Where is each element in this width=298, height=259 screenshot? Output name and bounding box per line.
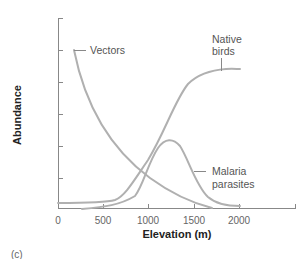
native-birds-label-line1: Native bbox=[212, 33, 242, 45]
malaria-label-line1: Malaria bbox=[212, 165, 247, 177]
x-tick-500: 500 bbox=[95, 215, 112, 226]
x-axis-title: Elevation (m) bbox=[142, 228, 211, 240]
x-tick-1500: 1500 bbox=[183, 215, 206, 226]
vectors-label: Vectors bbox=[90, 44, 125, 56]
x-tick-1000: 1000 bbox=[137, 215, 160, 226]
panel-label: (c) bbox=[11, 249, 23, 259]
native-birds-label-line2: birds bbox=[212, 45, 235, 57]
chart: Vectors Native birds Malaria parasites 0… bbox=[0, 0, 298, 259]
y-axis bbox=[59, 18, 64, 208]
y-axis-title: Abundance bbox=[11, 85, 23, 145]
vectors-curve bbox=[74, 50, 212, 208]
x-tick-2000: 2000 bbox=[228, 215, 251, 226]
x-tick-0: 0 bbox=[55, 215, 61, 226]
malaria-label-line2: parasites bbox=[212, 178, 255, 190]
